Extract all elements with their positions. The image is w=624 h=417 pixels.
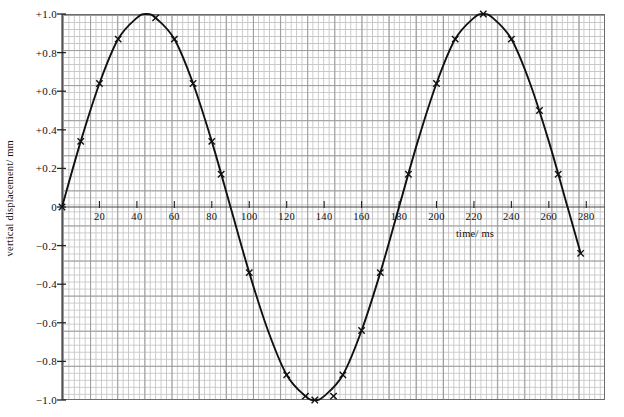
chart-svg bbox=[0, 0, 624, 417]
data-point-marker bbox=[302, 393, 308, 399]
chart-page: +1.0+0.8+0.6+0.4+0.20−0.2−0.4−0.6−0.8−1.… bbox=[0, 0, 624, 417]
data-point-marker bbox=[452, 36, 458, 42]
data-point-marker bbox=[171, 36, 177, 42]
data-point-marker bbox=[340, 372, 346, 378]
data-point-marker bbox=[283, 372, 289, 378]
data-point-marker bbox=[508, 36, 514, 42]
data-point-marker bbox=[152, 15, 158, 21]
data-point-marker bbox=[115, 36, 121, 42]
data-point-marker bbox=[330, 393, 336, 399]
axis-lines bbox=[62, 14, 605, 400]
